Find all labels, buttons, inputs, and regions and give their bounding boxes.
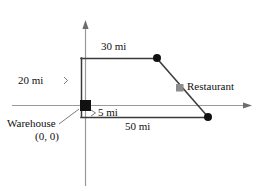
diagram-canvas — [0, 0, 259, 191]
restaurant-marker — [176, 84, 184, 92]
five-mi-brace-icon — [91, 110, 96, 116]
y-axis-arrowhead — [82, 20, 88, 29]
vertex-upper-right-marker — [153, 54, 161, 62]
restaurant-label: Restaurant — [187, 80, 234, 92]
top-segment-label: 30 mi — [101, 40, 126, 52]
warehouse-coordinates-label: (0, 0) — [35, 130, 59, 142]
warehouse-label: Warehouse — [7, 117, 56, 129]
vertex-lower-right-marker — [204, 113, 212, 121]
left-segment-label: 20 mi — [18, 74, 43, 86]
short-segment-label: 5 mi — [98, 106, 118, 118]
twenty-mi-brace-icon — [64, 77, 68, 84]
axes-group — [12, 20, 252, 186]
route-diagram-figure: 30 mi 20 mi 5 mi 50 mi Restaurant Wareho… — [0, 0, 259, 191]
warehouse-marker — [80, 100, 91, 111]
warehouse-leader-line — [59, 109, 79, 124]
x-axis-arrowhead — [243, 102, 252, 108]
bottom-segment-label: 50 mi — [125, 120, 150, 132]
